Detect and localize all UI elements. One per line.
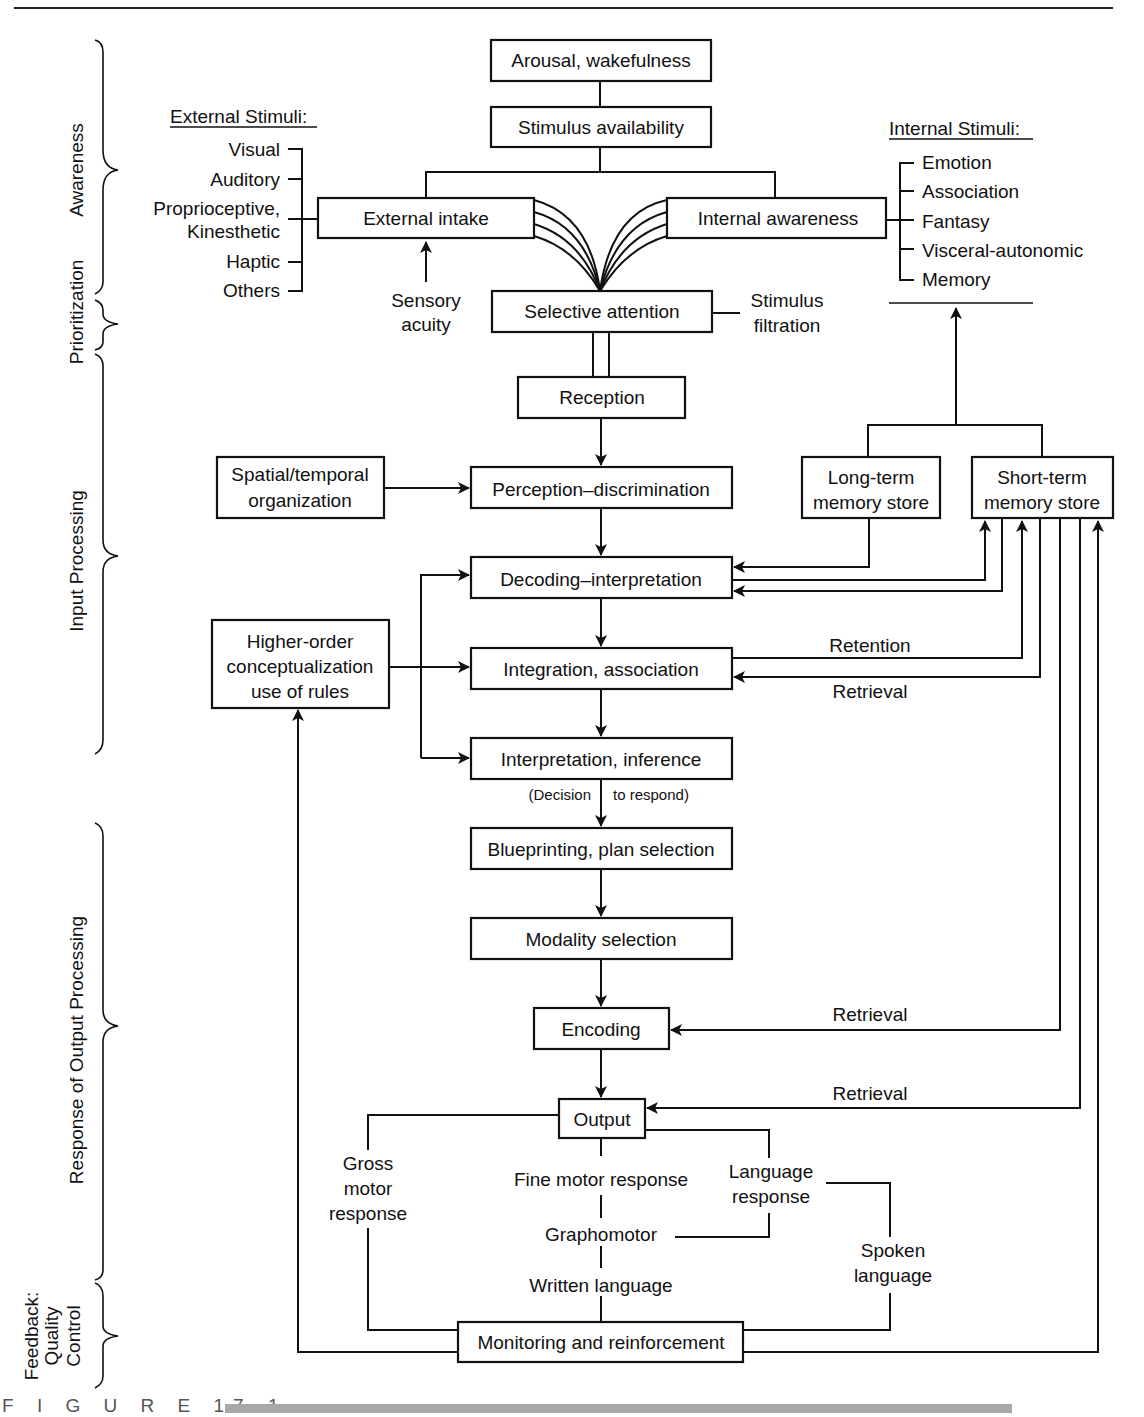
box-reception: Reception bbox=[518, 377, 685, 418]
stimulus-visual: Visual bbox=[229, 139, 280, 160]
label-fine-motor: Fine motor response bbox=[514, 1169, 688, 1190]
label-stimulus-filtration-1: Stimulus bbox=[751, 290, 824, 311]
label-decision: (Decision bbox=[528, 786, 591, 803]
box-blueprinting: Blueprinting, plan selection bbox=[471, 828, 732, 869]
box-stimulus-availability: Stimulus availability bbox=[491, 107, 711, 147]
brace-feedback bbox=[95, 1283, 118, 1388]
stage-output-processing: Response of Output Processing bbox=[66, 916, 87, 1184]
svg-text:Higher-order: Higher-order bbox=[247, 631, 354, 652]
brace-awareness bbox=[95, 40, 118, 294]
box-higher-order: Higher-order conceptualization use of ru… bbox=[212, 620, 389, 708]
box-encoding: Encoding bbox=[534, 1008, 669, 1049]
box-internal-awareness: Internal awareness bbox=[667, 198, 886, 238]
label-retrieval-integration: Retrieval bbox=[833, 681, 908, 702]
stage-feedback-line2: Quality bbox=[41, 1306, 62, 1366]
box-short-term-memory: Short-term memory store bbox=[972, 457, 1113, 518]
label-language-response-1: Language bbox=[729, 1161, 814, 1182]
svg-text:Reception: Reception bbox=[559, 387, 645, 408]
box-spatial-temporal: Spatial/temporal organization bbox=[217, 457, 384, 518]
svg-text:Output: Output bbox=[573, 1109, 631, 1130]
box-monitoring: Monitoring and reinforcement bbox=[458, 1322, 743, 1362]
box-perception: Perception–discrimination bbox=[471, 467, 732, 508]
svg-text:memory store: memory store bbox=[984, 492, 1100, 513]
svg-text:Short-term: Short-term bbox=[997, 467, 1087, 488]
svg-text:Perception–discrimination: Perception–discrimination bbox=[492, 479, 710, 500]
svg-text:External intake: External intake bbox=[363, 208, 489, 229]
box-integration: Integration, association bbox=[471, 648, 732, 689]
box-decoding: Decoding–interpretation bbox=[471, 557, 732, 598]
box-interpretation: Interpretation, inference bbox=[471, 738, 732, 779]
internal-stimuli-title: Internal Stimuli: bbox=[889, 118, 1020, 139]
svg-text:Stimulus availability: Stimulus availability bbox=[518, 117, 684, 138]
external-stimuli-title: External Stimuli: bbox=[170, 106, 307, 127]
stimulus-auditory: Auditory bbox=[210, 169, 280, 190]
svg-text:Internal awareness: Internal awareness bbox=[698, 208, 859, 229]
stage-input-processing: Input Processing bbox=[66, 490, 87, 632]
box-long-term-memory: Long-term memory store bbox=[802, 457, 940, 518]
label-retrieval-encoding: Retrieval bbox=[833, 1004, 908, 1025]
brace-input-processing bbox=[95, 354, 118, 754]
brace-prioritization bbox=[95, 300, 118, 350]
box-selective-attention: Selective attention bbox=[492, 291, 712, 332]
svg-text:memory store: memory store bbox=[813, 492, 929, 513]
label-graphomotor: Graphomotor bbox=[545, 1224, 658, 1245]
caption-bar bbox=[225, 1404, 1012, 1413]
stimulus-kinesthetic: Kinesthetic bbox=[187, 221, 280, 242]
svg-text:Integration, association: Integration, association bbox=[503, 659, 698, 680]
box-arousal: Arousal, wakefulness bbox=[491, 40, 711, 81]
svg-text:Decoding–interpretation: Decoding–interpretation bbox=[500, 569, 702, 590]
svg-text:Long-term: Long-term bbox=[828, 467, 915, 488]
label-spoken-language-1: Spoken bbox=[861, 1240, 925, 1261]
label-language-response-2: response bbox=[732, 1186, 810, 1207]
svg-text:Selective attention: Selective attention bbox=[524, 301, 679, 322]
label-retention: Retention bbox=[829, 635, 910, 656]
svg-text:use of rules: use of rules bbox=[251, 681, 349, 702]
figure-caption: F I G U R E 17-1 bbox=[2, 1395, 1012, 1416]
stimulus-memory: Memory bbox=[922, 269, 991, 290]
stage-prioritization: Prioritization bbox=[66, 260, 87, 365]
svg-text:conceptualization: conceptualization bbox=[227, 656, 374, 677]
svg-text:Modality selection: Modality selection bbox=[525, 929, 676, 950]
label-gross-motor-3: response bbox=[329, 1203, 407, 1224]
stage-braces: Awareness Prioritization Input Processin… bbox=[21, 40, 118, 1388]
label-to-respond: to respond) bbox=[613, 786, 689, 803]
svg-text:Encoding: Encoding bbox=[561, 1019, 640, 1040]
internal-stimuli: Internal Stimuli: Emotion Association Fa… bbox=[886, 118, 1083, 303]
label-stimulus-filtration-2: filtration bbox=[754, 315, 821, 336]
svg-text:Blueprinting, plan selection: Blueprinting, plan selection bbox=[487, 839, 714, 860]
stimulus-fantasy: Fantasy bbox=[922, 211, 990, 232]
stimulus-visceral-autonomic: Visceral-autonomic bbox=[922, 240, 1083, 261]
label-sensory-acuity-2: acuity bbox=[401, 314, 451, 335]
box-modality: Modality selection bbox=[471, 918, 732, 959]
label-sensory-acuity-1: Sensory bbox=[391, 290, 461, 311]
svg-text:Spatial/temporal: Spatial/temporal bbox=[231, 464, 368, 485]
svg-text:Arousal, wakefulness: Arousal, wakefulness bbox=[511, 50, 691, 71]
annotations: Sensory acuity Stimulus filtration Reten… bbox=[329, 290, 932, 1296]
stimulus-haptic: Haptic bbox=[226, 251, 280, 272]
stage-feedback-line1: Feedback: bbox=[21, 1292, 42, 1381]
stage-feedback-line3: Control bbox=[63, 1305, 84, 1366]
svg-text:organization: organization bbox=[248, 490, 352, 511]
svg-text:Interpretation, inference: Interpretation, inference bbox=[501, 749, 702, 770]
label-written-language: Written language bbox=[529, 1275, 672, 1296]
box-external-intake: External intake bbox=[318, 198, 534, 238]
stimulus-emotion: Emotion bbox=[922, 152, 992, 173]
stimulus-others: Others bbox=[223, 280, 280, 301]
label-gross-motor-1: Gross bbox=[343, 1153, 394, 1174]
label-spoken-language-2: language bbox=[854, 1265, 932, 1286]
label-gross-motor-2: motor bbox=[344, 1178, 393, 1199]
stimulus-proprioceptive: Proprioceptive, bbox=[153, 198, 280, 219]
brace-output-processing bbox=[95, 823, 118, 1280]
svg-text:Monitoring and reinforcement: Monitoring and reinforcement bbox=[477, 1332, 725, 1353]
information-processing-diagram: Awareness Prioritization Input Processin… bbox=[0, 0, 1144, 1417]
stage-awareness: Awareness bbox=[66, 123, 87, 217]
stimulus-association: Association bbox=[922, 181, 1019, 202]
external-stimuli: External Stimuli: Visual Auditory Propri… bbox=[153, 106, 318, 301]
label-retrieval-output: Retrieval bbox=[833, 1083, 908, 1104]
box-output: Output bbox=[559, 1099, 645, 1138]
